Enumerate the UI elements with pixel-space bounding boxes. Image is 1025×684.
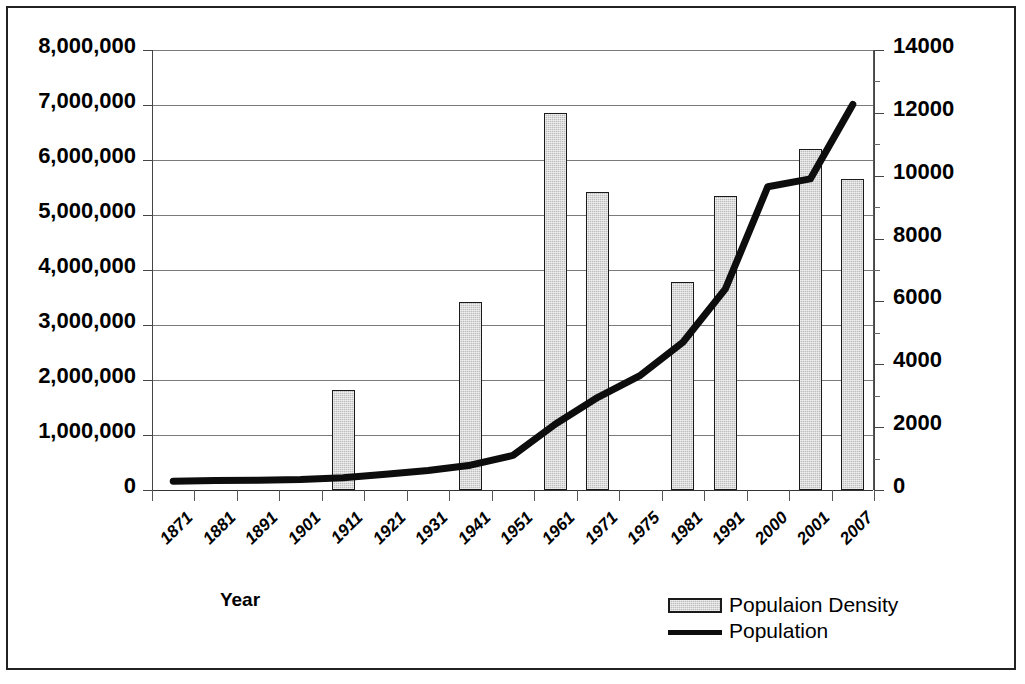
x-axis-title-label: Year [220,589,260,611]
right-axis-minor-tick [874,459,880,460]
plot-area [152,50,874,490]
left-axis-tick-label: 2,000,000 [38,365,136,387]
right-axis-minor-tick [874,396,880,397]
right-axis-tick-label: 14000 [893,35,954,57]
bar [586,192,609,490]
bar [459,302,482,490]
gridline [153,490,873,491]
x-axis-tick [704,490,705,501]
right-axis-tick-label: 2000 [893,412,942,434]
left-axis-tick [143,270,153,271]
gridline [153,325,873,326]
legend-label-population: Population [729,618,828,644]
left-axis-tick [143,105,153,106]
right-axis-tick-label: 10000 [893,161,954,183]
right-axis-minor-tick [874,81,880,82]
left-axis-tick-label: 6,000,000 [38,145,136,167]
bar [714,196,737,490]
left-axis-tick [143,50,153,51]
x-axis-tick [619,490,620,501]
right-axis-tick-label: 6000 [893,286,942,308]
left-axis-tick-label: 0 [124,475,136,497]
right-axis-tick [874,50,884,51]
x-axis-tick [577,490,578,501]
x-axis-tick [152,490,153,501]
left-axis-tick-label: 8,000,000 [38,35,136,57]
x-axis-tick [534,490,535,501]
right-axis-tick-label: 12000 [893,98,954,120]
x-axis-tick [789,490,790,501]
bar [671,282,694,490]
left-axis-tick-label: 7,000,000 [38,90,136,112]
right-axis-tick-label: 8000 [893,224,942,246]
gridline [153,380,873,381]
x-axis-tick [322,490,323,501]
right-axis-tick [874,364,884,365]
gridline [153,270,873,271]
x-axis-tick [364,490,365,501]
right-axis-tick-label: 4000 [893,349,942,371]
right-axis-minor-tick [874,333,880,334]
right-axis-tick [874,239,884,240]
x-axis-tick [874,490,875,501]
x-axis-tick [747,490,748,501]
right-axis-minor-tick [874,207,880,208]
gridline [153,215,873,216]
right-axis-tick-label: 0 [893,475,905,497]
x-axis-tick [662,490,663,501]
legend-label-population-density: Populaion Density [729,592,898,618]
x-axis-tick [194,490,195,501]
left-axis-tick [143,380,153,381]
left-axis-tick-label: 5,000,000 [38,200,136,222]
right-axis-tick [874,301,884,302]
left-axis-tick [143,435,153,436]
gridline [153,105,873,106]
left-axis-tick [143,160,153,161]
x-axis-tick [449,490,450,501]
legend-item-population: Population [668,618,898,644]
bar [544,113,567,490]
left-axis-tick-label: 3,000,000 [38,310,136,332]
x-axis-tick [832,490,833,501]
chart-legend: Populaion Density Population [668,592,898,644]
right-axis-minor-tick [874,144,880,145]
right-axis-tick [874,113,884,114]
left-axis-tick [143,215,153,216]
x-axis-tick [407,490,408,501]
bar-swatch-icon [668,598,722,613]
gridline [153,435,873,436]
bar [841,179,864,490]
bar [332,390,355,490]
x-axis-tick [237,490,238,501]
right-axis-minor-tick [874,270,880,271]
left-axis-tick-label: 4,000,000 [38,255,136,277]
x-axis-tick [279,490,280,501]
right-axis-tick [874,490,884,491]
right-axis-tick [874,176,884,177]
left-axis-tick [143,325,153,326]
gridline [153,50,873,51]
gridline [153,160,873,161]
left-axis-tick-label: 1,000,000 [38,420,136,442]
line-swatch-icon [668,624,722,639]
right-axis-tick [874,427,884,428]
bar [799,149,822,490]
x-axis-tick [492,490,493,501]
legend-item-population-density: Populaion Density [668,592,898,618]
chart-figure: 01,000,0002,000,0003,000,0004,000,0005,0… [0,0,1025,684]
